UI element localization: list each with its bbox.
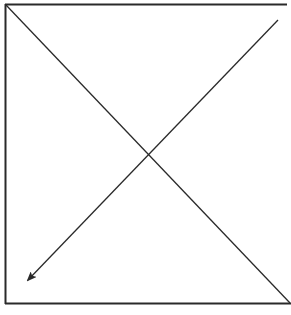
diagram-canvas [0,0,291,315]
diagonal-arrow-line [28,20,278,280]
